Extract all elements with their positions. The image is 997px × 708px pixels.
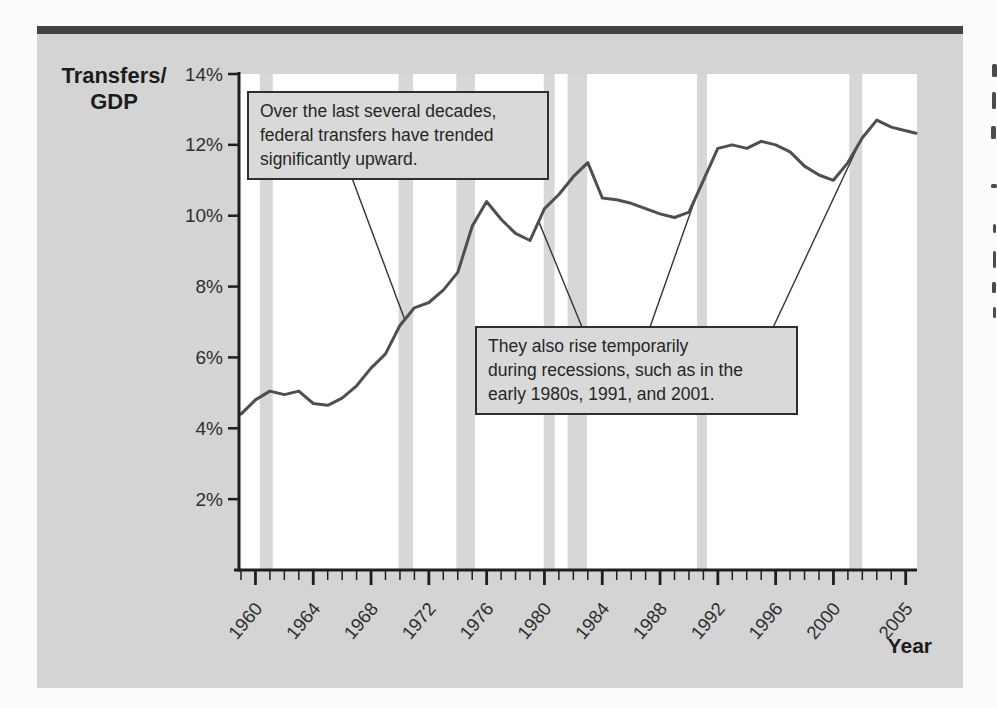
margin-text-fragment (992, 92, 996, 109)
annotation-text-line: Over the last several decades, (260, 99, 536, 123)
annotation-text-line: significantly upward. (260, 147, 536, 171)
x-tick-label: 1992 (686, 598, 729, 643)
margin-text-fragment (993, 224, 996, 233)
textbook-figure-page: 2%4%6%8%10%12%14%19601964196819721976198… (0, 0, 997, 708)
x-tick-label: 1960 (224, 598, 267, 643)
y-tick-label: 8% (196, 276, 224, 297)
margin-text-fragment (991, 184, 997, 188)
margin-text-fragment (992, 282, 996, 293)
annotation-box-recessions: They also rise temporarily during recess… (475, 326, 798, 415)
x-tick-label: 1988 (629, 598, 672, 643)
y-axis-title-line2: GDP (52, 89, 176, 115)
annotation-box-trend: Over the last several decades, federal t… (247, 91, 549, 180)
annotation-text-line: They also rise temporarily (488, 334, 785, 358)
x-axis-title: Year (850, 634, 932, 658)
margin-text-fragment (993, 251, 996, 268)
annotation-text-line: during recessions, such as in the (488, 358, 785, 382)
y-tick-label: 14% (185, 64, 223, 85)
y-tick-label: 4% (196, 418, 224, 439)
x-tick-label: 1972 (397, 598, 440, 643)
y-axis-title-line1: Transfers/ (52, 63, 176, 89)
x-tick-label: 2000 (802, 598, 845, 643)
y-tick-label: 6% (196, 347, 224, 368)
annotation-text-line: federal transfers have trended (260, 123, 536, 147)
x-tick-label: 1996 (744, 598, 787, 643)
margin-text-fragment (993, 307, 996, 318)
x-tick-label: 1964 (282, 598, 325, 643)
x-tick-label: 1980 (513, 598, 556, 643)
y-tick-label: 12% (185, 134, 223, 155)
x-tick-label: 1968 (340, 598, 383, 643)
recession-band (697, 74, 707, 570)
margin-text-fragment (991, 126, 996, 139)
x-tick-label: 1976 (455, 598, 498, 643)
x-tick-label: 1984 (571, 598, 614, 643)
margin-text-fragment (992, 64, 997, 77)
y-tick-label: 2% (196, 489, 224, 510)
annotation-text-line: early 1980s, 1991, and 2001. (488, 382, 785, 406)
recession-band (568, 74, 588, 570)
y-axis-title: Transfers/ GDP (52, 63, 176, 115)
y-tick-label: 10% (185, 205, 223, 226)
